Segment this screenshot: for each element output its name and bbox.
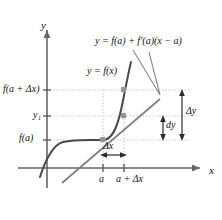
dy-label: dy	[166, 120, 175, 130]
dy-arrow-bottom	[160, 134, 166, 141]
function-curve	[40, 62, 131, 177]
differentials-diagram: y x y = f(a) + f′(a)(x − a) y = f(x) f(a…	[0, 0, 222, 220]
delta-y-label: Δy	[186, 106, 196, 116]
tangent-label-leader	[133, 50, 160, 95]
delta-x-arrow-left	[100, 152, 107, 158]
delta-x-arrow-right	[120, 152, 127, 158]
x-tick-label-a-plus-delta-x: a + Δx	[116, 174, 143, 184]
dy-arrow-top	[160, 115, 166, 122]
marker-adx-fadx	[121, 87, 126, 92]
x-axis-label: x	[209, 165, 214, 176]
y-tick-label-f-a: f(a)	[19, 133, 33, 143]
delta-x-label: Δx	[103, 141, 113, 151]
curve-equation-label: y = f(x)	[87, 66, 117, 76]
tangent-equation-label: y = f(a) + f′(a)(x − a)	[95, 36, 182, 46]
y-tick-label-f-a-plus-delta-x: f(a + Δx)	[3, 84, 40, 94]
delta-y-arrow-bottom	[179, 134, 185, 141]
y-tick-label-y1: y₁	[33, 110, 41, 120]
y-axis-arrow	[44, 30, 51, 38]
x-axis-arrow	[192, 165, 200, 172]
tick-marks	[43, 90, 124, 172]
y-axis-label: y	[41, 20, 46, 31]
marker-adx-y1	[121, 113, 126, 118]
delta-y-arrow-top	[179, 89, 185, 96]
x-tick-label-a: a	[99, 174, 104, 184]
